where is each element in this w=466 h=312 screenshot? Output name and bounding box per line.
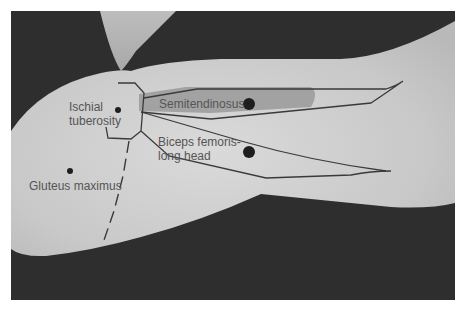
figure-frame: Ischial tuberosity Semitendinosus Biceps…: [11, 11, 455, 300]
label-ischial-tuberosity: Ischial tuberosity: [69, 100, 121, 128]
gluteus-maximus-marker: [67, 168, 73, 174]
semitendinosus-marker: [243, 98, 255, 110]
biceps-femoris-marker: [243, 146, 255, 158]
upper-notch-region: [100, 11, 176, 71]
label-biceps-femoris: Biceps femoris- long head: [158, 135, 241, 163]
label-gluteus-maximus: Gluteus maximus: [29, 179, 122, 193]
label-semitendinosus: Semitendinosus: [159, 97, 244, 111]
